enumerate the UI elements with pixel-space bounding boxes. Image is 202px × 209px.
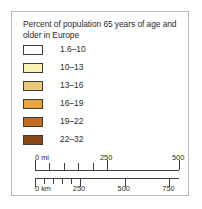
legend-item-3[interactable]: 13–16 (23, 79, 183, 97)
scale-bar: 0 mi250500 0 km250500750 (35, 156, 179, 194)
legend-label-1: 1.6–10 (60, 43, 86, 56)
legend-item-2[interactable]: 10–13 (23, 61, 183, 79)
legend-item-4[interactable]: 16–19 (23, 97, 183, 115)
scale-tick (64, 163, 65, 170)
legend-label-5: 19–22 (60, 115, 83, 128)
scale-tick (53, 178, 54, 184)
legend-swatch-1-6-10 (23, 45, 43, 55)
legend-title: Percent of population 65 years of age an… (23, 19, 183, 40)
legend-label-4: 16–19 (60, 97, 83, 110)
legend-label-6: 22–32 (60, 133, 83, 146)
legend-label-3: 13–16 (60, 79, 83, 92)
scale-tick-label-km: 500 (118, 184, 130, 193)
legend-swatch-10-13 (23, 63, 43, 73)
scale-tick-label-miles: 250 (100, 153, 112, 162)
legend-swatch-22-32 (23, 135, 43, 145)
scale-unit-label-miles: 0 mi (35, 153, 49, 162)
legend-swatch-13-16 (23, 81, 43, 91)
scale-tick-label-km: 750 (162, 184, 174, 193)
scale-tick-label-miles: 500 (172, 153, 184, 162)
map-legend-panel: Percent of population 65 years of age an… (11, 11, 189, 196)
scale-tick (71, 178, 72, 184)
legend-swatch-16-19 (23, 99, 43, 109)
legend-item-1[interactable]: 1.6–10 (23, 43, 183, 61)
legend-item-5[interactable]: 19–22 (23, 115, 183, 133)
legend-item-6[interactable]: 22–32 (23, 133, 183, 151)
scale-tick-label-km: 250 (73, 184, 85, 193)
scale-bar-km-line (35, 178, 179, 179)
scale-bar-miles-line (35, 170, 179, 171)
scale-unit-label-km: 0 km (35, 184, 51, 193)
legend-label-2: 10–13 (60, 61, 83, 74)
scale-tick (62, 178, 63, 184)
scale-tick (78, 163, 79, 170)
scale-tick (49, 163, 50, 170)
legend-swatch-19-22 (23, 117, 43, 127)
legend-class-list: 1.6–10 10–13 13–16 16–19 19–22 22–32 (23, 43, 183, 151)
scale-tick (93, 163, 94, 170)
